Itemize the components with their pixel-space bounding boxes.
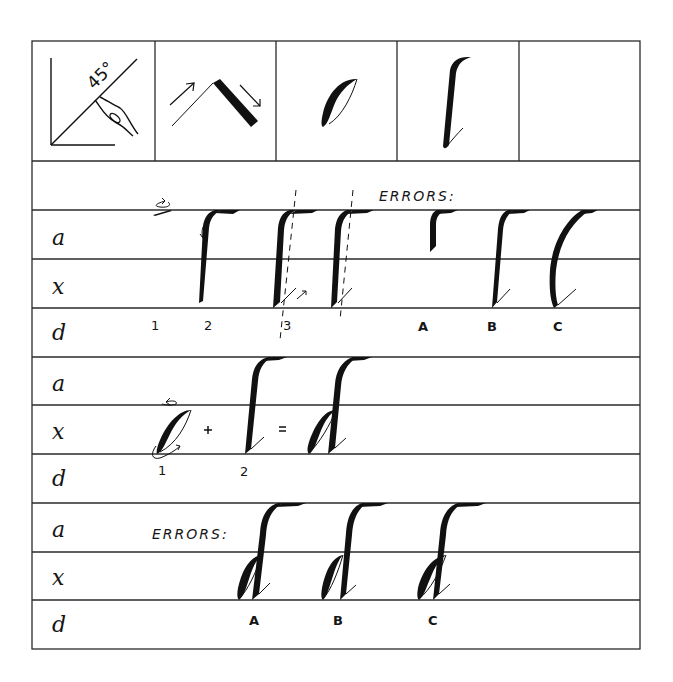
section3-strokes <box>0 0 673 682</box>
error-letter: A <box>249 614 259 627</box>
calligraphy-worksheet: 45° a x d a x d a x d <box>0 0 673 682</box>
errors-heading: ERRORS: <box>152 527 229 541</box>
error-letter: B <box>333 614 343 627</box>
error-letter: C <box>428 614 438 627</box>
